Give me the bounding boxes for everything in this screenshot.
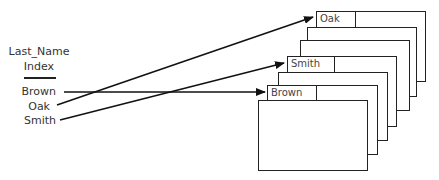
pointer-arrows [0, 0, 439, 180]
